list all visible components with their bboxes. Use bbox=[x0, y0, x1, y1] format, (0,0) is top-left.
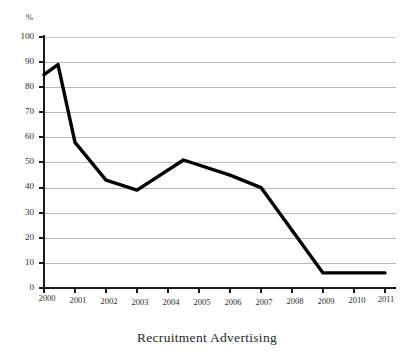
chart-figure: % 100 90 80 70 60 50 40 30 20 10 0 2000 … bbox=[0, 0, 414, 356]
plot-area bbox=[0, 0, 414, 356]
data-line-recruitment-advertising bbox=[44, 65, 385, 273]
chart-title: Recruitment Advertising bbox=[0, 330, 414, 346]
gridlines bbox=[44, 37, 396, 263]
